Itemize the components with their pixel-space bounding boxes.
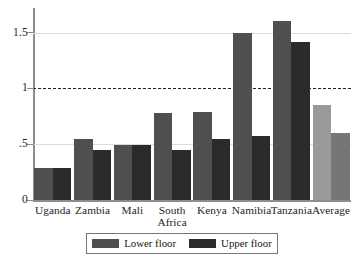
bar-upper-floor: [53, 168, 72, 200]
y-tick-label: 0: [0, 194, 28, 206]
bar-lower-floor: [273, 21, 292, 200]
bar-lower-floor: [154, 113, 173, 200]
chart-legend: Lower floor Upper floor: [86, 233, 278, 254]
legend-swatch-lower-floor: [92, 239, 119, 248]
bar-lower-floor: [233, 33, 252, 200]
bar-upper-floor: [252, 136, 271, 200]
bar-upper-floor: [172, 150, 191, 200]
x-tick-label-text: Africa: [149, 217, 195, 229]
y-tick-mark: [27, 200, 34, 201]
y-tick-mark: [27, 32, 34, 33]
bar-lower-floor: [114, 145, 133, 200]
legend-label-lower-floor: Lower floor: [124, 238, 176, 249]
y-tick-mark: [27, 88, 34, 89]
bar-upper-floor: [331, 133, 350, 200]
y-tick-label: 1: [0, 82, 28, 94]
bar-upper-floor: [132, 145, 151, 200]
gridline: [33, 33, 351, 34]
legend-item-lower-floor: Lower floor: [92, 238, 176, 249]
plot-area: [33, 8, 351, 200]
bar-chart: 0.511.5 UgandaZambiaMaliSouthAfricaKenya…: [0, 0, 356, 260]
bar-lower-floor: [74, 139, 93, 200]
y-tick-label: .5: [0, 138, 28, 150]
y-tick-mark: [27, 144, 34, 145]
bar-lower-floor: [193, 112, 212, 200]
x-tick-label: Average: [308, 205, 354, 217]
bar-upper-floor: [291, 42, 310, 201]
legend-item-upper-floor: Upper floor: [189, 238, 272, 249]
x-axis-line: [33, 200, 351, 202]
bar-lower-floor: [313, 105, 332, 200]
bar-upper-floor: [93, 150, 112, 200]
legend-label-upper-floor: Upper floor: [221, 238, 272, 249]
legend-swatch-upper-floor: [189, 239, 216, 248]
bar-upper-floor: [212, 139, 231, 200]
y-tick-label: 1.5: [0, 27, 28, 39]
bar-lower-floor: [34, 168, 53, 200]
x-tick-label-text: Average: [308, 205, 354, 217]
